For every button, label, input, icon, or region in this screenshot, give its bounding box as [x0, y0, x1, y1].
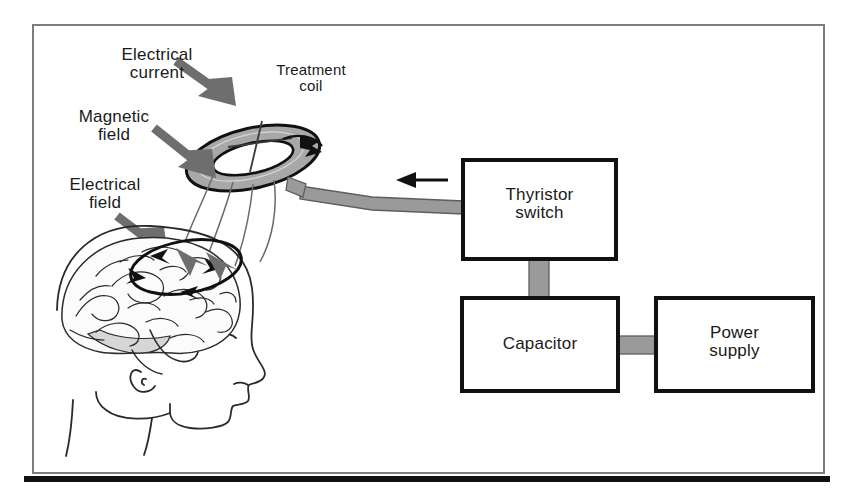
- thyristor-to-capacitor-cable: [529, 257, 549, 300]
- label-electrical-field: Electrical field: [45, 176, 165, 213]
- current-flow-arrow: [396, 172, 448, 188]
- coil-to-thyristor-cable: [300, 186, 463, 214]
- label-thyristor-switch: Thyristor switch: [463, 186, 616, 223]
- capacitor-to-power-supply-cable: [616, 336, 658, 354]
- label-treatment-coil: Treatment coil: [252, 62, 370, 94]
- label-capacitor: Capacitor: [462, 335, 618, 353]
- bottom-divider-rule: [24, 476, 830, 482]
- label-electrical-current: Electrical current: [92, 46, 222, 83]
- label-magnetic-field: Magnetic field: [53, 108, 175, 145]
- label-power-supply: Power supply: [656, 324, 813, 361]
- figure-canvas: Electrical current Treatment coil Magnet…: [0, 0, 852, 502]
